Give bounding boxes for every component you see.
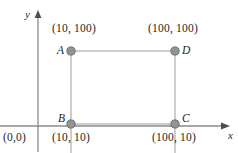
point-letter-B: B <box>58 113 65 125</box>
origin-label: (0,0) <box>3 132 26 144</box>
coord-label-A: (10, 100) <box>52 23 96 35</box>
coordinate-diagram: y x (0,0) (10, 100) (100, 100) (10, 10) … <box>0 0 238 153</box>
y-axis <box>35 10 42 152</box>
point-letter-A: A <box>57 45 64 57</box>
point-letter-D: D <box>182 45 190 57</box>
diagram-canvas <box>0 0 238 153</box>
point-dot-A <box>67 47 75 55</box>
point-dot-B <box>67 120 75 128</box>
vertex-dots <box>67 47 179 128</box>
point-letter-C: C <box>182 113 190 125</box>
y-axis-label: y <box>25 9 30 20</box>
coord-label-B: (10, 10) <box>52 132 90 144</box>
x-axis-label: x <box>228 130 233 141</box>
point-dot-C <box>171 120 179 128</box>
point-dot-D <box>171 47 179 55</box>
coord-label-C: (100, 10) <box>152 132 196 144</box>
coord-label-D: (100, 100) <box>148 23 198 35</box>
